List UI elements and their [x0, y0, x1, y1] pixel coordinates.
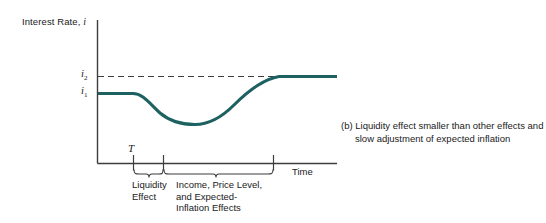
- y-axis-label-text: Interest Rate,: [22, 16, 83, 27]
- interest-rate-time-figure: [0, 0, 546, 223]
- figure-caption: (b) Liquidity effect smaller than other …: [341, 120, 546, 145]
- i1-axis-value: i1: [81, 85, 87, 99]
- y-axis-symbol: i: [83, 16, 86, 27]
- income-price-expected-label: Income, Price Level, and Expected- Infla…: [176, 179, 262, 214]
- i2-axis-value: i2: [81, 68, 87, 82]
- y-axis-label: Interest Rate, i: [22, 16, 86, 27]
- liquidity-effect-brace: [134, 170, 163, 178]
- i1-subscript: 1: [84, 91, 88, 99]
- shock-time-label: T: [128, 142, 134, 154]
- liquidity-effect-label: Liquidity Effect: [132, 179, 167, 202]
- x-axis-label: Time: [292, 166, 313, 177]
- income-effects-brace: [164, 170, 273, 178]
- i2-subscript: 2: [84, 74, 88, 82]
- interest-rate-curve: [98, 77, 337, 125]
